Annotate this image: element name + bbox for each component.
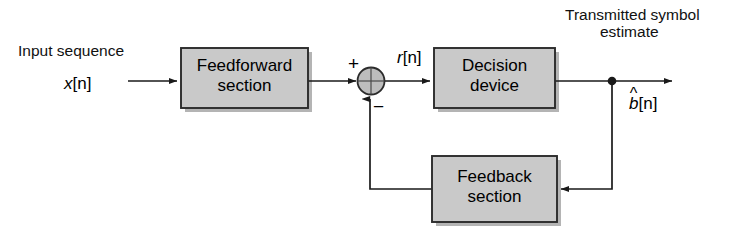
mid-signal-index: [n]: [403, 48, 422, 67]
output-tap-dot: [608, 77, 617, 86]
block-diagram: Feedforward section Decision device Feed…: [0, 0, 735, 245]
wire-tap-to-feedback: [561, 81, 612, 189]
output-signal-index: [n]: [638, 94, 657, 113]
decision-block[interactable]: [434, 48, 555, 108]
output-signal-base-wrap: b^: [629, 94, 638, 114]
output-signal-hat: ^: [630, 84, 638, 103]
feedforward-block[interactable]: [181, 48, 308, 108]
input-caption: Input sequence: [18, 42, 124, 61]
input-signal-index: [n]: [73, 74, 92, 93]
input-signal-base: x: [64, 74, 73, 93]
output-signal-label: b^[n]: [629, 94, 657, 114]
output-caption-line1: Transmitted symbol: [565, 6, 700, 25]
feedback-block[interactable]: [432, 156, 557, 222]
mid-signal-label: r[n]: [397, 48, 422, 68]
sum-minus-sign: −: [373, 97, 384, 116]
input-signal-label: x[n]: [64, 74, 91, 94]
sum-plus-sign: +: [348, 54, 359, 73]
output-caption-line2: estimate: [600, 23, 659, 42]
